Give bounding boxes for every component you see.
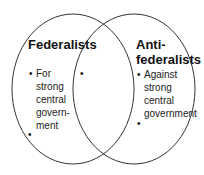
antifederalists-item-1: Against strong central government [144, 68, 200, 120]
antifederalists-title: Anti- federalists [136, 37, 201, 67]
federalists-empty-bullet: • [28, 128, 32, 141]
federalists-item-1: For strong central govern- ment [36, 67, 76, 132]
bullet-icon: • [137, 68, 141, 81]
item-line: govern- [36, 106, 76, 119]
item-line: central [36, 93, 76, 106]
item-line: strong [36, 80, 76, 93]
item-line: government [144, 107, 200, 120]
federalists-title: Federalists [28, 37, 97, 52]
item-line: Against [144, 68, 200, 81]
item-line: ment [36, 119, 76, 132]
overlap-empty-bullet: • [80, 67, 84, 80]
title-line: Anti- [136, 37, 201, 52]
item-line: For [36, 67, 76, 80]
antifederalists-empty-bullet: • [137, 117, 141, 130]
item-line: central [144, 94, 200, 107]
bullet-icon: • [29, 67, 33, 80]
title-line: federalists [136, 52, 201, 67]
item-line: strong [144, 81, 200, 94]
